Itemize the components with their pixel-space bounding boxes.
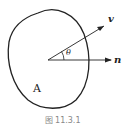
vector-n-label: n <box>114 55 121 65</box>
angle-label: θ <box>66 49 71 57</box>
angle-arc <box>62 52 65 61</box>
region-label: A <box>33 83 41 94</box>
vector-v-line <box>48 26 104 60</box>
vector-n-arrowhead <box>105 58 112 63</box>
region-boundary <box>8 10 89 109</box>
diagram-canvas <box>0 0 125 128</box>
figure-caption: 图 11.3.1 <box>0 114 125 125</box>
vector-v-label: v <box>108 14 114 24</box>
vector-v-arrowhead <box>97 26 104 31</box>
